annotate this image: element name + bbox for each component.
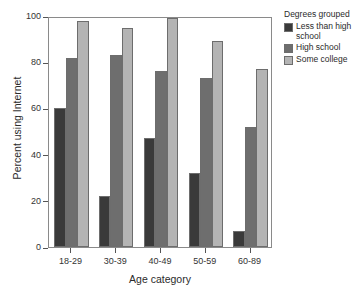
bar [66, 58, 78, 247]
x-tick-mark [205, 248, 206, 253]
bar [200, 78, 212, 247]
legend-item: High school [284, 43, 358, 53]
x-tick-mark [70, 248, 71, 253]
chart-figure: 020406080100 Percent using Internet 18-2… [0, 0, 358, 300]
bar [256, 69, 268, 247]
legend-item-label: Less than high school [296, 22, 358, 41]
x-tick-label: 60-89 [238, 256, 261, 266]
x-tick-mark [115, 248, 116, 253]
y-tick-label: 40 [31, 149, 41, 162]
x-tick-label: 40-49 [148, 256, 171, 266]
bar [245, 127, 257, 247]
legend-item-label: High school [296, 43, 340, 53]
legend-items: Less than high schoolHigh schoolSome col… [284, 22, 358, 65]
legend-title: Degrees grouped [284, 9, 358, 19]
legend-item: Less than high school [284, 22, 358, 41]
legend-item: Some college [284, 55, 358, 65]
bar [77, 21, 89, 247]
legend-swatch-icon [284, 56, 293, 65]
y-axis: 020406080100 [0, 0, 48, 300]
y-tick-label: 60 [31, 102, 41, 115]
x-tick-mark [160, 248, 161, 253]
x-axis-title: Age category [48, 273, 272, 285]
plot-area-frame [48, 17, 272, 248]
bar [167, 18, 179, 247]
legend: Degrees grouped Less than high schoolHig… [284, 9, 358, 67]
y-tick-label: 80 [31, 56, 41, 69]
bar [99, 196, 111, 247]
bar [144, 138, 156, 247]
bar [155, 71, 167, 247]
y-tick-label: 20 [31, 195, 41, 208]
plot-area [49, 18, 271, 247]
bar [122, 28, 134, 247]
y-tick-label: 0 [36, 241, 41, 254]
bar [189, 173, 201, 247]
legend-swatch-icon [284, 23, 293, 32]
x-tick-label: 50-59 [193, 256, 216, 266]
y-axis-title: Percent using Internet [11, 23, 23, 233]
legend-swatch-icon [284, 44, 293, 53]
y-tick-label: 100 [26, 10, 41, 23]
bar [212, 41, 224, 247]
bar [233, 231, 245, 247]
x-tick-label: 18-29 [59, 256, 82, 266]
legend-item-label: Some college [296, 55, 348, 65]
x-tick-label: 30-39 [104, 256, 127, 266]
x-tick-mark [250, 248, 251, 253]
bar [110, 55, 122, 247]
bar [54, 108, 66, 247]
